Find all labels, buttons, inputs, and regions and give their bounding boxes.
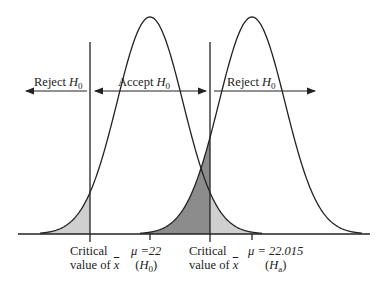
ha-distribution-curve <box>140 17 362 233</box>
reject-right-label: Reject H0 <box>227 75 276 89</box>
accept-label: Accept H0 <box>118 75 170 89</box>
critical-value-left-label: Critical value of x <box>70 244 119 272</box>
critical-value-right-label: Critical value of x <box>189 244 238 272</box>
type-i-error-left-tail <box>40 192 90 234</box>
h0-distribution-curve <box>40 17 262 233</box>
h0-mean-label: μ =22 (H0) <box>131 244 161 272</box>
reject-left-label: Reject H0 <box>34 75 83 89</box>
ha-mean-label: μ = 22.015 (Ha) <box>248 244 303 272</box>
type-i-error-right-tail <box>210 192 262 234</box>
